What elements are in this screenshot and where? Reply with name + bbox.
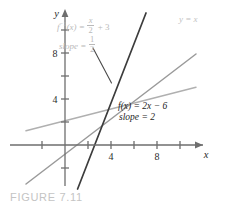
- finv-slope-word: slope =: [59, 41, 86, 51]
- x-axis-label: x: [203, 149, 209, 160]
- annotation-f-inverse-slope: slope = 1 2: [59, 35, 111, 54]
- annotation-f-equation: f(x) = 2x − 6: [118, 101, 167, 112]
- figure-caption: FIGURE 7.11: [10, 191, 83, 203]
- figure-container: 4 8 4 8 x y f−1(x) = x 2 + 3 slope = 1: [0, 0, 230, 215]
- finv-slope-fraction: 1 2: [89, 35, 95, 54]
- annotation-identity-line: y = x: [179, 14, 198, 25]
- x-tick-label-4: 4: [109, 151, 114, 162]
- finv-plus-term: + 3: [96, 22, 110, 32]
- finv-fraction: x 2: [87, 16, 93, 35]
- line-f-inverse: [26, 87, 196, 131]
- finv-arg: (x) =: [66, 22, 84, 32]
- finv-frac-numerator: x: [87, 16, 93, 24]
- finv-slope-numerator: 1: [89, 35, 95, 43]
- x-tick-label-8: 8: [155, 151, 160, 162]
- x-axis-arrow-icon: [195, 142, 203, 149]
- annotation-f-inverse-equation: f−1(x) = x 2 + 3: [57, 16, 111, 35]
- plot-area: 4 8 4 8 x y: [0, 0, 230, 190]
- annotation-f: f(x) = 2x − 6 slope = 2: [118, 101, 167, 123]
- graph-svg: 4 8 4 8 x y: [0, 0, 230, 190]
- finv-slope-denominator: 2: [89, 45, 95, 53]
- annotation-f-inverse: f−1(x) = x 2 + 3 slope = 1 2: [57, 16, 111, 54]
- annotation-f-slope: slope = 2: [119, 112, 167, 123]
- identity-text: y = x: [179, 14, 198, 24]
- line-identity: [26, 54, 196, 184]
- y-tick-label-4: 4: [53, 94, 58, 105]
